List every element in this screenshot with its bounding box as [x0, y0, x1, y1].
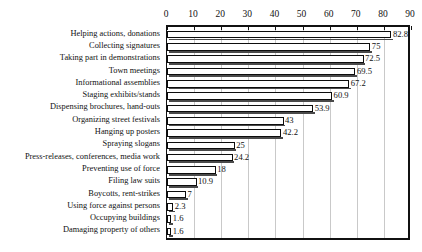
category-label: Staging exhibits/stands	[83, 89, 160, 100]
axis-tickmark	[411, 26, 412, 30]
x-tick-label: 80	[378, 8, 388, 20]
x-tick-label: 90	[405, 8, 415, 20]
bar-shadow	[169, 112, 315, 114]
bar-row: 10.9	[167, 177, 408, 189]
category-label: Helping actions, donations	[70, 28, 160, 39]
bar-shadow	[169, 63, 366, 65]
bar-value-label: 10.9	[197, 176, 214, 187]
bar-row: 75	[167, 42, 408, 54]
x-tick-label: 10	[188, 8, 198, 20]
bar-value-label: 69.5	[355, 66, 372, 77]
bar	[167, 117, 284, 125]
category-label: Occupying buildings	[90, 212, 160, 223]
bar-row: 82.8	[167, 30, 408, 42]
category-label: Filing law suits	[108, 175, 160, 186]
bar-value-label: 53.9	[313, 103, 330, 114]
x-tick-label: 50	[297, 8, 307, 20]
bar-row: 60.9	[167, 91, 408, 103]
bar	[167, 68, 355, 76]
bar	[167, 166, 216, 174]
x-tick-label: 0	[164, 8, 169, 20]
bar-shadow	[169, 51, 372, 53]
bar-row: 53.9	[167, 103, 408, 115]
bar-shadow	[169, 100, 334, 102]
bar-shadow	[169, 137, 283, 139]
bar-row: 42.2	[167, 128, 408, 140]
category-label: Informational assemblies	[76, 77, 160, 88]
bar-value-label: 25	[235, 140, 245, 151]
bar-shadow	[169, 161, 235, 163]
bar-value-label: 42.2	[281, 127, 298, 138]
bar	[167, 31, 391, 39]
category-label: Hanging up posters	[95, 126, 160, 137]
bar-row: 25	[167, 140, 408, 152]
bar	[167, 80, 349, 88]
bar-row: 72.5	[167, 54, 408, 66]
category-axis-labels: Helping actions, donationsCollecting sig…	[0, 25, 163, 240]
category-label: Preventing use of force	[82, 163, 160, 174]
x-tick-label: 20	[215, 8, 225, 20]
bar	[167, 129, 281, 137]
bar-shadow	[169, 88, 351, 90]
bar-value-label: 60.9	[332, 90, 349, 101]
bar	[167, 154, 233, 162]
bar-shadow	[169, 125, 286, 127]
bar	[167, 55, 364, 63]
bar-row: 1.6	[167, 226, 408, 238]
bar-value-label: 1.6	[171, 213, 183, 224]
bar	[167, 142, 235, 150]
category-label: Using force against persons	[67, 200, 160, 211]
bar	[167, 191, 186, 199]
bar-shadow	[169, 186, 199, 188]
bar	[167, 92, 332, 100]
bar-shadow	[169, 149, 237, 151]
bar-row: 18	[167, 165, 408, 177]
bar-value-label: 1.6	[171, 226, 183, 237]
bar-row: 7	[167, 189, 408, 201]
bar-value-label: 7	[186, 189, 192, 200]
category-label: Town meetings	[109, 65, 160, 76]
x-tick-label: 70	[351, 8, 361, 20]
bar-value-label: 18	[216, 164, 226, 175]
bar-value-label: 82.8	[391, 29, 408, 40]
category-label: Collecting signatures	[89, 40, 160, 51]
bar-row: 1.6	[167, 214, 408, 226]
category-label: Damaging property of others	[63, 224, 160, 235]
x-tick-label: 30	[243, 8, 253, 20]
plot-area: 82.87572.569.567.260.953.94342.22524.218…	[166, 25, 410, 240]
category-label: Organizing street festivals	[72, 114, 160, 125]
bar-row: 2.3	[167, 202, 408, 214]
bar-shadow	[169, 198, 188, 200]
bar-shadow	[169, 39, 393, 41]
bar	[167, 43, 370, 51]
x-axis-tick-labels: 0102030405060708090	[166, 8, 410, 24]
category-label: Taking part in demonstrations	[60, 52, 160, 63]
x-tick-label: 40	[270, 8, 280, 20]
bar-value-label: 67.2	[349, 78, 366, 89]
category-label: Dispensing brochures, hand-outs	[50, 101, 160, 112]
bar-value-label: 75	[370, 41, 380, 52]
bar-row: 43	[167, 116, 408, 128]
bar-row: 67.2	[167, 79, 408, 91]
category-label: Press-releases, conferences, media work	[25, 151, 160, 162]
category-label: Spraying slogans	[103, 138, 160, 149]
bar-shadow	[169, 174, 218, 176]
bar-value-label: 43	[284, 115, 294, 126]
bar-row: 24.2	[167, 152, 408, 164]
x-tick-label: 60	[324, 8, 334, 20]
bar-value-label: 72.5	[364, 53, 381, 64]
bar-row: 69.5	[167, 66, 408, 78]
bar	[167, 178, 197, 186]
bar-shadow	[169, 75, 357, 77]
bar-chart: 0102030405060708090 82.87572.569.567.260…	[0, 0, 422, 252]
bar-value-label: 24.2	[233, 152, 250, 163]
category-label: Boycotts, rent-strikes	[88, 188, 160, 199]
bar	[167, 105, 313, 113]
bars-layer: 82.87572.569.567.260.953.94342.22524.218…	[167, 27, 408, 238]
bar-value-label: 2.3	[173, 201, 185, 212]
